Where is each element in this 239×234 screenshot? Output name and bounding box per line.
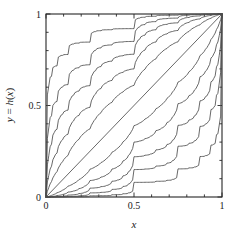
- y-axis-title-equals: =: [3, 106, 15, 118]
- figure-root: 0 0.5 1 0 0.5 1 x y = h(x): [0, 0, 239, 234]
- x-tick-label-0.5: 0.5: [128, 200, 141, 211]
- line-plot-svg: 0 0.5 1 0 0.5 1 x y = h(x): [0, 0, 239, 234]
- y-tick-label-1: 1: [36, 9, 41, 20]
- y-axis-title-paren-close: ): [3, 88, 16, 92]
- y-tick-label-0.5: 0.5: [29, 100, 42, 111]
- svg-text:y = h(x): y = h(x): [3, 88, 16, 124]
- x-axis-title: x: [131, 218, 137, 230]
- x-tick-label-0: 0: [44, 200, 49, 211]
- x-tick-label-1: 1: [220, 200, 225, 211]
- y-axis-title: y = h(x): [3, 88, 16, 124]
- y-tick-label-0: 0: [36, 192, 41, 203]
